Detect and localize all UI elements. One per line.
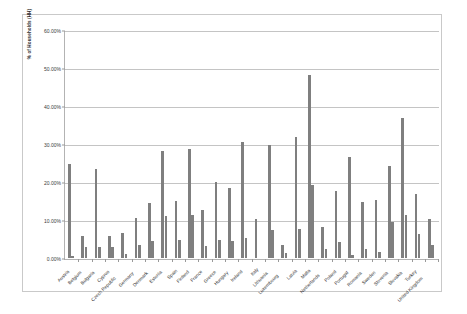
bar-group — [66, 31, 79, 258]
bar-group — [239, 31, 252, 258]
y-axis-tick-label: 10.00% — [44, 218, 61, 224]
bar — [215, 182, 218, 258]
bar — [285, 253, 288, 258]
x-axis-label-cell: Estonia — [159, 263, 172, 314]
bar-group — [266, 31, 279, 258]
bar — [415, 194, 418, 258]
bar — [255, 219, 258, 258]
bar-group — [399, 31, 412, 258]
bar-group — [159, 31, 172, 258]
y-axis-tick-label: 60.00% — [44, 28, 61, 34]
bar — [228, 188, 231, 258]
bar-group — [226, 31, 239, 258]
bar-group — [293, 31, 306, 258]
x-axis-label-cell: Portugal — [346, 263, 359, 314]
bar — [81, 236, 84, 258]
bar — [401, 118, 404, 258]
bar-series-container — [66, 31, 439, 258]
y-axis-tick-mark — [62, 221, 65, 222]
bar-group — [93, 31, 106, 258]
bar — [201, 210, 204, 258]
x-axis-tick — [253, 259, 266, 262]
bar — [405, 215, 408, 258]
bar — [151, 241, 154, 258]
bar-group — [199, 31, 212, 258]
y-axis-tick-mark — [62, 145, 65, 146]
bar-group — [386, 31, 399, 258]
bar-group — [333, 31, 346, 258]
bar-group — [426, 31, 439, 258]
bar — [321, 227, 324, 258]
bar — [148, 203, 151, 258]
bar-group — [213, 31, 226, 258]
y-axis-tick-label: 40.00% — [44, 104, 61, 110]
bar — [378, 252, 381, 258]
bar-group — [186, 31, 199, 258]
y-axis-tick-label: 0.00% — [47, 256, 61, 262]
x-axis-label-cell: Slovenia — [386, 263, 399, 314]
bar — [241, 142, 244, 258]
bar — [121, 233, 124, 258]
y-axis-tick-label: 50.00% — [44, 66, 61, 72]
bar — [325, 249, 328, 258]
bar — [418, 234, 421, 258]
x-axis-label-cell: Romania — [359, 263, 372, 314]
bar — [295, 137, 298, 258]
x-axis-label-cell: Netherlands — [319, 263, 332, 314]
x-axis-label-cell: Germany — [132, 263, 145, 314]
bar-group — [119, 31, 132, 258]
bar-group — [306, 31, 319, 258]
bar — [108, 236, 111, 258]
x-axis-label-cell: Ireland — [239, 263, 252, 314]
y-axis-title: % of Households (HH) — [27, 0, 37, 89]
bar — [281, 245, 284, 258]
y-axis-tick-mark — [62, 259, 65, 260]
bar — [245, 238, 248, 258]
bar — [428, 219, 431, 258]
bar — [365, 249, 368, 258]
y-axis-tick-mark — [62, 68, 65, 69]
y-axis-tick-mark — [62, 106, 65, 107]
bar — [161, 151, 164, 258]
bar — [95, 169, 98, 258]
chart-frame: % of Households (HH) 60.00%50.00%40.00%3… — [22, 14, 442, 292]
plot-area: 60.00%50.00%40.00%30.00%20.00%10.00%0.00… — [64, 31, 439, 260]
x-axis-label-cell: United Kingdom — [426, 263, 439, 314]
bar-group — [279, 31, 292, 258]
bar-group — [373, 31, 386, 258]
bar-group — [146, 31, 159, 258]
bar — [351, 255, 354, 258]
x-axis-label-cell: Spain — [172, 263, 185, 314]
bar — [361, 202, 364, 258]
bar — [268, 145, 271, 259]
bar — [165, 216, 168, 258]
plot-wrapper: 60.00%50.00%40.00%30.00%20.00%10.00%0.00… — [64, 31, 439, 260]
bar-group — [413, 31, 426, 258]
bar-group — [319, 31, 332, 258]
bar-group — [79, 31, 92, 258]
y-axis-tick-label: 20.00% — [44, 180, 61, 186]
bar — [68, 164, 71, 258]
bar-group — [173, 31, 186, 258]
bar — [298, 229, 301, 258]
bar — [111, 247, 114, 258]
x-axis-label: Italy — [256, 261, 266, 271]
x-axis-labels: AustriaBelgiumBulgariaCyprusCzech Republ… — [65, 263, 439, 314]
bar — [178, 240, 181, 258]
bar — [348, 157, 351, 258]
x-axis-label-cell: France — [199, 263, 212, 314]
bar-group — [133, 31, 146, 258]
y-axis-tick-mark — [62, 182, 65, 183]
bar — [218, 240, 221, 258]
bar — [188, 149, 191, 258]
bar — [311, 185, 314, 258]
bar — [335, 191, 338, 258]
y-axis-tick-label: 30.00% — [44, 142, 61, 148]
bar — [125, 254, 128, 258]
bar — [175, 201, 178, 259]
bar — [375, 200, 378, 258]
x-axis-label-cell: Greece — [212, 263, 225, 314]
bar — [231, 241, 234, 258]
bar — [271, 230, 274, 258]
bar — [308, 75, 311, 258]
